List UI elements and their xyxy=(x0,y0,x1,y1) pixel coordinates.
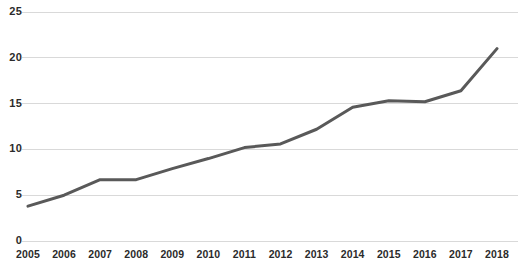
data-series-group xyxy=(28,49,497,207)
y-axis-tick-label: 0 xyxy=(0,235,22,246)
x-axis-tick-label: 2012 xyxy=(264,249,298,260)
y-axis-tick-label: 15 xyxy=(0,98,22,109)
x-axis-tick-label: 2006 xyxy=(47,249,81,260)
x-axis-tick-label: 2017 xyxy=(444,249,478,260)
data-line xyxy=(28,49,497,207)
x-axis-tick-label: 2009 xyxy=(155,249,189,260)
y-axis-tick-label: 20 xyxy=(0,52,22,63)
x-axis-tick-label: 2005 xyxy=(11,249,45,260)
x-axis-tick-label: 2011 xyxy=(227,249,261,260)
y-axis-tick-label: 10 xyxy=(0,143,22,154)
x-axis-tick-label: 2007 xyxy=(83,249,117,260)
x-axis-tick-label: 2016 xyxy=(408,249,442,260)
x-axis-tick-label: 2015 xyxy=(372,249,406,260)
x-axis-tick-label: 2018 xyxy=(480,249,514,260)
line-chart: 0510152025 20052006200720082009201020112… xyxy=(0,0,520,266)
x-axis-tick-label: 2008 xyxy=(119,249,153,260)
x-axis-tick-label: 2013 xyxy=(300,249,334,260)
x-axis-tick-label: 2014 xyxy=(336,249,370,260)
gridlines-group xyxy=(22,12,518,241)
y-axis-tick-label: 25 xyxy=(0,6,22,17)
y-axis-tick-label: 5 xyxy=(0,189,22,200)
chart-plot-area xyxy=(0,0,520,266)
x-axis-tick-label: 2010 xyxy=(191,249,225,260)
